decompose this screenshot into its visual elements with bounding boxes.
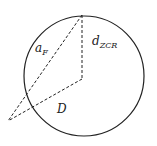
geometry-diagram: aF dZCR D: [0, 0, 157, 146]
d-line: [8, 79, 82, 121]
circle: [24, 16, 144, 136]
label-D: D: [56, 102, 67, 116]
label-a-f: aF: [35, 41, 48, 57]
label-d-zcr: dZCR: [92, 34, 117, 50]
